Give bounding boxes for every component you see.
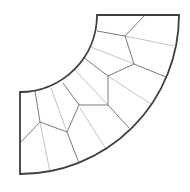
mesh-edge xyxy=(40,122,67,132)
mesh-edge xyxy=(91,47,134,64)
mesh-edge xyxy=(20,122,40,143)
mesh-edge xyxy=(83,57,108,76)
mesh-edge xyxy=(125,36,134,64)
mesh-edge xyxy=(108,76,151,104)
mesh-edge xyxy=(125,36,174,46)
mesh-diagram xyxy=(0,0,190,192)
mesh-edge xyxy=(67,132,79,163)
mesh-edge xyxy=(134,64,166,77)
mesh-edge xyxy=(51,88,67,132)
light-edges xyxy=(40,36,174,172)
mesh-edge xyxy=(80,108,106,149)
mesh-edge xyxy=(125,15,145,36)
mesh-edge xyxy=(35,91,40,122)
mesh-edge xyxy=(67,105,79,132)
mesh-edge xyxy=(97,31,125,36)
mesh-edge xyxy=(74,69,108,105)
mesh-edge xyxy=(108,105,129,128)
mesh-edge xyxy=(63,83,79,105)
mesh-edge xyxy=(40,122,50,172)
mesh-edge xyxy=(108,64,134,76)
annular-sector-diagram xyxy=(0,0,190,192)
sector-boundary xyxy=(20,15,179,174)
